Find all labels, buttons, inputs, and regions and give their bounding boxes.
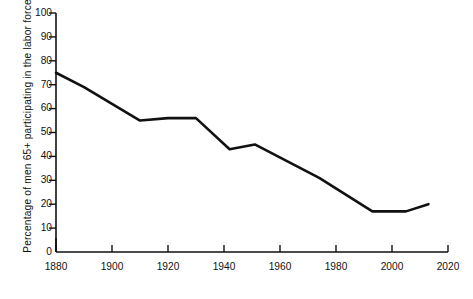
chart-container: Percentage of men 65+ participating in t…	[0, 0, 473, 299]
x-axis-ticks	[56, 245, 448, 252]
data-series-line	[56, 73, 428, 212]
y-axis-ticks	[49, 13, 56, 228]
plot-area	[0, 0, 473, 299]
axes	[49, 13, 448, 252]
